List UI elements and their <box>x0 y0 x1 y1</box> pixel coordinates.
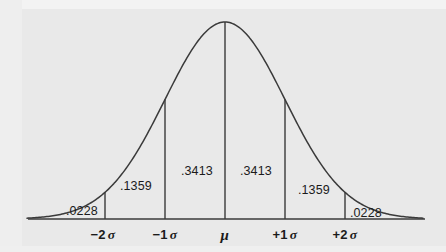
normal-distribution-figure: .0228.1359.3413.3413.1359.0228 −2σ−1σμ+1… <box>0 0 446 252</box>
area-right-tail: .0228 <box>350 207 382 220</box>
tick-label-mu: μ <box>221 228 230 243</box>
tick-symbol-minus-2-sigma: σ <box>108 227 115 242</box>
area-right-inner: .3413 <box>240 165 272 178</box>
tick-label-plus-1-sigma: +1σ <box>273 228 298 242</box>
tick-label-minus-1-sigma: −1σ <box>153 228 178 242</box>
tick-symbol-plus-1-sigma: σ <box>290 227 297 242</box>
area-left-inner: .3413 <box>181 165 213 178</box>
tick-symbol-mu: μ <box>221 227 230 243</box>
area-left-tail: .0228 <box>66 205 98 218</box>
area-left-outer: .1359 <box>120 180 152 193</box>
tick-symbol-plus-2-sigma: σ <box>350 227 357 242</box>
tick-symbol-minus-1-sigma: σ <box>170 227 177 242</box>
area-right-outer: .1359 <box>298 184 330 197</box>
tick-sign-minus-2-sigma: −2 <box>91 227 106 242</box>
tick-sign-minus-1-sigma: −1 <box>153 227 168 242</box>
tick-sign-plus-2-sigma: +2 <box>333 227 348 242</box>
tick-label-minus-2-sigma: −2σ <box>91 228 116 242</box>
tick-sign-plus-1-sigma: +1 <box>273 227 288 242</box>
tick-label-plus-2-sigma: +2σ <box>333 228 358 242</box>
